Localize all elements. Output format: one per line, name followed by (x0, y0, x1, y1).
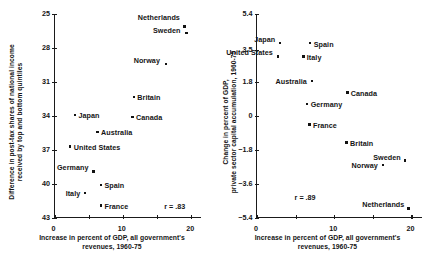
x-axis-label: Increase in percent of GDP, all governme… (221, 233, 434, 251)
data-label-norway: Norway (352, 162, 378, 169)
x-axis-label-line1: Increase in percent of GDP, all governme… (221, 233, 434, 242)
x-tick-label: 0 (39, 225, 69, 232)
x-axis-label-line2: revenues, 1960-75 (12, 242, 212, 251)
x-tick-label: 20 (175, 225, 205, 232)
data-label-united-states: United States (74, 144, 121, 151)
x-tick-label: 20 (395, 225, 425, 232)
plot-area (256, 14, 422, 218)
x-tick-label: 10 (318, 225, 348, 232)
x-tick (89, 215, 90, 220)
data-label-italy: Italy (66, 190, 81, 197)
data-point-japan (279, 42, 281, 44)
y-tick-label: 40 (0, 180, 50, 187)
data-point-united-states (69, 145, 71, 147)
data-point-britain (133, 96, 135, 98)
x-tick (411, 215, 412, 220)
correlation-annotation: r = .83 (164, 203, 185, 210)
data-label-germany: Germany (311, 101, 343, 108)
y-tick-label: 28 (0, 44, 50, 51)
data-label-sweden: Sweden (373, 154, 400, 161)
data-point-netherlands (183, 25, 185, 27)
scatter-panel-income: Difference in post-tax shares of nationa… (0, 0, 217, 269)
x-tick (191, 215, 192, 220)
y-tick-label: 0 (218, 112, 253, 119)
y-tick-label: 1.8 (218, 78, 253, 85)
data-label-britain: Britain (350, 140, 373, 147)
data-label-japan: Japan (254, 36, 275, 43)
data-label-spain: Spain (314, 41, 334, 48)
data-point-britain (345, 141, 347, 143)
y-tick-label: 43 (0, 214, 50, 221)
data-point-italy (84, 192, 86, 194)
x-tick (123, 215, 124, 220)
y-tick (52, 14, 57, 15)
data-point-netherlands (407, 207, 409, 209)
data-label-australia: Australia (276, 78, 307, 85)
data-label-netherlands: Netherlands (138, 14, 180, 21)
y-tick-label: −3.6 (218, 180, 253, 187)
data-point-germany (92, 170, 94, 172)
data-label-netherlands: Netherlands (362, 201, 404, 208)
data-label-united-states: United States (226, 49, 273, 56)
correlation-annotation: r = .89 (295, 194, 316, 201)
data-point-spain (309, 42, 311, 44)
x-tick (157, 215, 158, 220)
x-axis-label: Increase in percent of GDP, all governme… (12, 233, 212, 251)
x-tick (257, 215, 258, 220)
x-axis-label-line1: Increase in percent of GDP, all governme… (12, 233, 212, 242)
x-axis-label-line2: revenues, 1960-75 (221, 242, 434, 251)
data-label-norway: Norway (134, 57, 160, 64)
y-tick-label: −5.4 (218, 214, 253, 221)
scatter-panel-capital: Change in percent of GDP,private sector … (218, 0, 435, 269)
x-tick (334, 215, 335, 220)
y-tick-label: −1.8 (218, 146, 253, 153)
x-tick (373, 215, 374, 220)
data-label-canada: Canada (136, 114, 162, 121)
data-point-norway (382, 164, 384, 166)
x-tick-label: 10 (107, 225, 137, 232)
figure-root: Difference in post-tax shares of nationa… (0, 0, 435, 269)
data-point-spain (100, 184, 102, 186)
data-point-france (308, 123, 310, 125)
data-point-australia (311, 80, 313, 82)
data-label-australia: Australia (101, 129, 132, 136)
y-tick (52, 150, 57, 151)
data-label-germany: Germany (57, 164, 89, 171)
data-point-japan (74, 114, 76, 116)
data-label-britain: Britain (137, 94, 160, 101)
data-point-germany (306, 103, 308, 105)
x-tick-label: 0 (241, 225, 271, 232)
data-point-sweden (404, 159, 406, 161)
x-tick (296, 215, 297, 220)
data-label-france: France (313, 122, 337, 129)
y-tick-label: 25 (0, 10, 50, 17)
y-tick (52, 116, 57, 117)
data-label-italy: Italy (307, 54, 322, 61)
y-tick (255, 82, 260, 83)
y-tick-label: 37 (0, 146, 50, 153)
data-point-norway (165, 63, 167, 65)
y-tick-label: 34 (0, 112, 50, 119)
data-label-sweden: Sweden (153, 27, 180, 34)
data-label-spain: Spain (104, 182, 124, 189)
plot-area (54, 14, 201, 218)
data-label-france: France (104, 203, 128, 210)
data-point-canada (346, 91, 348, 93)
data-label-japan: Japan (79, 112, 100, 119)
data-point-italy (302, 55, 304, 57)
data-point-canada (131, 116, 133, 118)
y-tick-label: 31 (0, 78, 50, 85)
data-point-sweden (185, 32, 187, 34)
y-tick (52, 82, 57, 83)
y-tick (52, 48, 57, 49)
y-tick-label: 5.4 (218, 10, 253, 17)
y-tick (52, 184, 57, 185)
y-tick (255, 150, 260, 151)
y-tick (255, 116, 260, 117)
data-point-france (100, 204, 102, 206)
y-axis-label-line1: Difference in post-tax shares of nationa… (8, 44, 15, 199)
data-point-australia (96, 131, 98, 133)
data-point-united-states (277, 55, 279, 57)
y-tick (255, 184, 260, 185)
x-tick (55, 215, 56, 220)
